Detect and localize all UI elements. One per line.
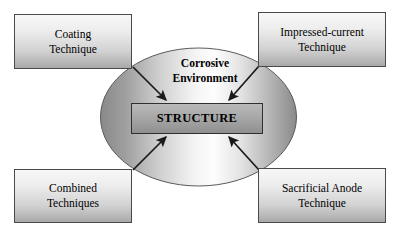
technique-box-impressed-current[interactable]: Impressed-current Technique	[258, 12, 386, 67]
diagram-canvas: Corrosive Environment Coating Technique …	[0, 0, 400, 236]
coating-label-line1: Coating	[49, 27, 97, 42]
technique-box-combined[interactable]: Combined Techniques	[14, 169, 132, 223]
technique-box-coating[interactable]: Coating Technique	[14, 14, 132, 69]
technique-box-sacrificial-anode[interactable]: Sacrificial Anode Technique	[258, 168, 386, 223]
sacrificial-label-line2: Technique	[282, 196, 362, 211]
impressed-label-line1: Impressed-current	[280, 25, 364, 40]
combined-label-line1: Combined	[47, 181, 99, 196]
structure-label: STRUCTURE	[157, 111, 238, 126]
coating-label-line2: Technique	[49, 42, 97, 57]
sacrificial-label-line1: Sacrificial Anode	[282, 181, 362, 196]
impressed-label-line2: Technique	[280, 40, 364, 55]
structure-box[interactable]: STRUCTURE	[131, 103, 263, 134]
combined-label-line2: Techniques	[47, 196, 99, 211]
